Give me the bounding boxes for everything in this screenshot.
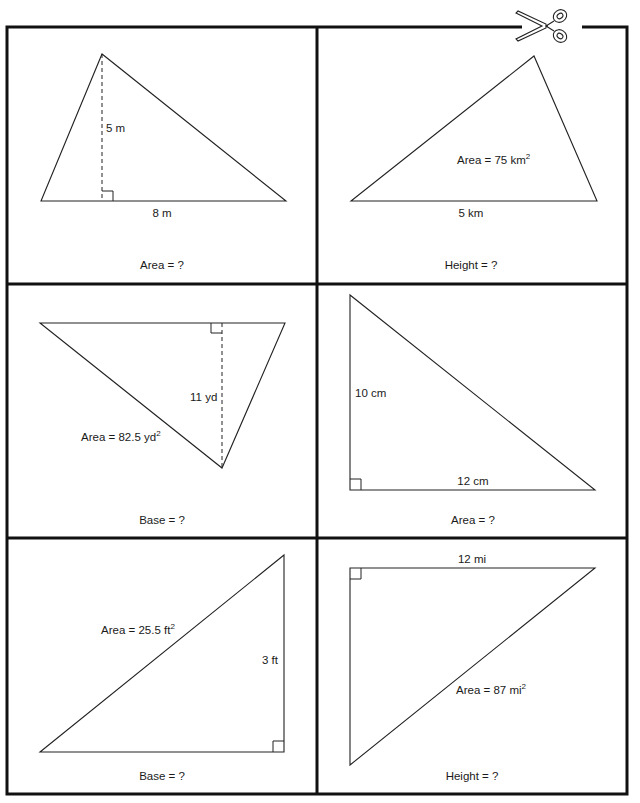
area-label: Area = 75 km2	[457, 152, 531, 166]
base-label: 12 cm	[457, 475, 488, 487]
area-label: Area = 82.5 yd2	[81, 429, 161, 443]
card-2: Area = 75 km2 5 km Height = ?	[351, 56, 597, 271]
card-4: 10 cm 12 cm Area = ?	[350, 295, 595, 526]
question-prompt: Height = ?	[445, 259, 498, 271]
height-label: 11 yd	[190, 391, 217, 403]
base-label: 12 mi	[458, 553, 486, 565]
triangle-shape	[350, 568, 595, 765]
right-angle-marker	[102, 191, 113, 201]
area-label: Area = 25.5 ft2	[101, 622, 175, 636]
area-label: Area = 87 mi2	[456, 682, 527, 696]
height-label: 3 ft	[262, 654, 279, 666]
base-label: 5 km	[459, 207, 484, 219]
triangle-shape	[40, 555, 284, 752]
question-prompt: Base = ?	[139, 770, 185, 782]
card-1: 5 m 8 m Area = ?	[41, 54, 286, 271]
card-5: Area = 25.5 ft2 3 ft Base = ?	[40, 555, 284, 782]
height-label: 10 cm	[355, 387, 386, 399]
right-angle-marker	[273, 741, 284, 752]
card-3: 11 yd Area = 82.5 yd2 Base = ?	[40, 323, 285, 526]
question-prompt: Height = ?	[446, 770, 499, 782]
triangle-shape	[40, 323, 285, 468]
triangle-shape	[350, 295, 595, 490]
right-angle-marker	[350, 568, 361, 579]
question-prompt: Base = ?	[139, 514, 185, 526]
question-prompt: Area = ?	[140, 259, 184, 271]
question-prompt: Area = ?	[451, 514, 495, 526]
right-angle-marker	[350, 479, 361, 490]
triangle-shape	[351, 56, 597, 201]
card-grid	[7, 27, 627, 794]
base-label: 8 m	[152, 207, 171, 219]
right-angle-marker	[211, 323, 222, 333]
worksheet-canvas: 5 m 8 m Area = ? Area = 75 km2 5 km Heig…	[0, 0, 640, 803]
height-label: 5 m	[106, 122, 125, 134]
worksheet: 5 m 8 m Area = ? Area = 75 km2 5 km Heig…	[0, 0, 640, 803]
card-6: 12 mi Area = 87 mi2 Height = ?	[350, 553, 595, 782]
triangle-shape	[41, 54, 286, 201]
scissors-icon	[516, 7, 582, 45]
